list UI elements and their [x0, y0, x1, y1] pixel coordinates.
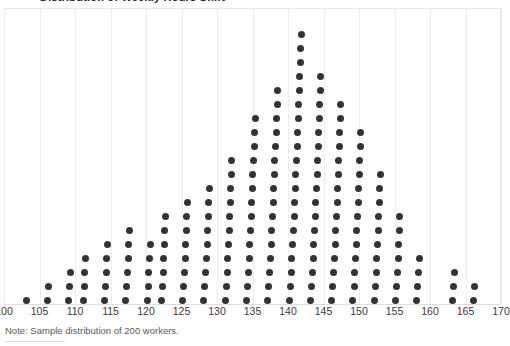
data-dot	[265, 283, 272, 290]
x-axis-tick-label: 160	[421, 305, 439, 317]
data-dot	[449, 297, 456, 304]
data-dot	[376, 199, 383, 206]
data-dot	[331, 255, 338, 262]
data-dot	[271, 157, 278, 164]
data-dot	[314, 171, 321, 178]
data-dot	[376, 185, 383, 192]
data-dot	[270, 185, 277, 192]
data-dot	[337, 115, 344, 122]
data-dot	[274, 87, 281, 94]
data-dot	[371, 297, 378, 304]
data-dot	[295, 101, 302, 108]
data-dot	[200, 297, 207, 304]
data-dot	[317, 87, 324, 94]
data-dot	[162, 213, 169, 220]
data-dot	[203, 255, 210, 262]
x-axis-tick-label: 120	[137, 305, 155, 317]
x-axis-tick-label: 110	[67, 305, 84, 317]
data-dot	[288, 269, 295, 276]
data-dot	[292, 171, 299, 178]
data-dot	[270, 199, 277, 206]
data-dot	[248, 213, 255, 220]
data-dot	[23, 297, 30, 304]
data-dot	[180, 283, 187, 290]
data-dot	[104, 241, 111, 248]
data-dot	[414, 283, 421, 290]
data-dot	[307, 297, 314, 304]
data-dot	[296, 87, 303, 94]
data-dot	[328, 297, 335, 304]
data-dot	[243, 297, 250, 304]
data-dot	[337, 101, 344, 108]
data-dot	[336, 143, 343, 150]
data-dot	[336, 129, 343, 136]
data-dot	[227, 185, 234, 192]
data-dot	[354, 213, 361, 220]
data-dot	[292, 185, 299, 192]
data-dot	[332, 241, 339, 248]
data-dot	[204, 241, 211, 248]
data-dot	[333, 213, 340, 220]
data-dot	[357, 143, 364, 150]
data-dot	[392, 297, 399, 304]
data-dot	[309, 269, 316, 276]
x-axis-tick-label: 125	[173, 305, 191, 317]
gridline	[501, 9, 502, 304]
data-dot	[224, 269, 231, 276]
data-dot	[159, 283, 166, 290]
data-dot	[227, 199, 234, 206]
data-dot	[81, 269, 88, 276]
data-dot	[67, 269, 74, 276]
data-dot	[225, 241, 232, 248]
data-dot	[313, 185, 320, 192]
x-axis-tick-label: 130	[208, 305, 226, 317]
data-dot	[202, 269, 209, 276]
gridline	[111, 9, 112, 304]
chart-title: Distribution of Weekly Hours Shift	[40, 0, 225, 3]
x-axis-tick-label: 105	[31, 305, 49, 317]
data-dot	[357, 129, 364, 136]
data-dot	[395, 255, 402, 262]
data-dot	[183, 213, 190, 220]
data-dot	[145, 269, 152, 276]
data-dot	[101, 297, 108, 304]
data-dot	[204, 227, 211, 234]
data-dot	[349, 297, 356, 304]
gridline	[40, 9, 41, 304]
data-dot	[222, 297, 229, 304]
data-dot	[335, 171, 342, 178]
data-dot	[415, 269, 422, 276]
plot-area	[4, 8, 501, 305]
data-dot	[295, 115, 302, 122]
data-dot	[289, 241, 296, 248]
data-dot	[297, 59, 304, 66]
data-dot	[248, 199, 255, 206]
x-axis-tick-label: 155	[386, 305, 404, 317]
data-dot	[182, 255, 189, 262]
data-dot	[161, 227, 168, 234]
data-dot	[247, 227, 254, 234]
data-dot	[330, 269, 337, 276]
data-dot	[416, 255, 423, 262]
data-dot	[375, 213, 382, 220]
data-dot	[372, 283, 379, 290]
data-dot	[413, 297, 420, 304]
gridline	[4, 9, 5, 304]
data-dot	[161, 241, 168, 248]
data-dot	[251, 143, 258, 150]
data-dot	[45, 283, 52, 290]
data-dot	[294, 129, 301, 136]
data-dot	[353, 241, 360, 248]
data-dot	[308, 283, 315, 290]
data-dot	[224, 255, 231, 262]
data-dot	[228, 157, 235, 164]
data-dot	[394, 269, 401, 276]
data-dot	[395, 241, 402, 248]
data-dot	[273, 129, 280, 136]
chart-note: Note: Sample distribution of 200 workers…	[5, 325, 179, 336]
data-dot	[293, 157, 300, 164]
data-dot	[315, 129, 322, 136]
data-dot	[314, 157, 321, 164]
data-dot	[271, 171, 278, 178]
data-dot	[287, 283, 294, 290]
